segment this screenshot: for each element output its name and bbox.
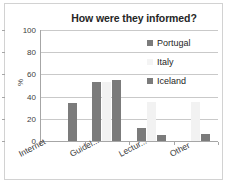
y-axis-tick-label: 100 (23, 26, 36, 35)
y-axis-tick-label: 60 (27, 70, 36, 79)
bar-group (85, 30, 130, 141)
legend-entry[interactable]: Iceland (147, 72, 221, 89)
bar[interactable] (147, 102, 156, 141)
bar[interactable] (92, 82, 101, 141)
legend-swatch-icon (147, 78, 153, 84)
bar[interactable] (68, 103, 77, 141)
y-axis-tick-mark (2, 119, 5, 120)
chart-legend: PortugalItalyIceland (147, 34, 221, 91)
x-axis-tick-labels: InternetGuidel...Lectur...Other (5, 142, 224, 182)
y-axis-tick-label: 40 (27, 92, 36, 101)
x-axis-tick-label: Other (168, 140, 191, 159)
y-axis-tick-mark (2, 52, 5, 53)
legend-swatch-icon (147, 59, 153, 65)
bar[interactable] (201, 134, 210, 141)
y-axis-tick-label: 20 (27, 114, 36, 123)
y-axis-tick-labels: 100806040200 (5, 30, 36, 142)
bar[interactable] (157, 135, 166, 141)
legend-entry[interactable]: Portugal (147, 34, 221, 51)
y-axis-tick-mark (2, 97, 5, 98)
legend-label: Portugal (157, 38, 191, 48)
chart-container: How were they informed? % 100806040200 I… (4, 3, 223, 180)
legend-label: Italy (157, 57, 174, 67)
bar-group (40, 30, 85, 141)
bar[interactable] (112, 80, 121, 141)
legend-label: Iceland (157, 76, 186, 86)
bar[interactable] (102, 82, 111, 141)
y-axis-tick-mark (2, 74, 5, 75)
legend-swatch-icon (147, 40, 153, 46)
chart-title: How were they informed? (45, 12, 223, 24)
bar[interactable] (191, 102, 200, 141)
legend-entry[interactable]: Italy (147, 53, 221, 70)
y-axis-tick-label: 80 (27, 48, 36, 57)
y-axis-tick-mark (2, 30, 5, 31)
